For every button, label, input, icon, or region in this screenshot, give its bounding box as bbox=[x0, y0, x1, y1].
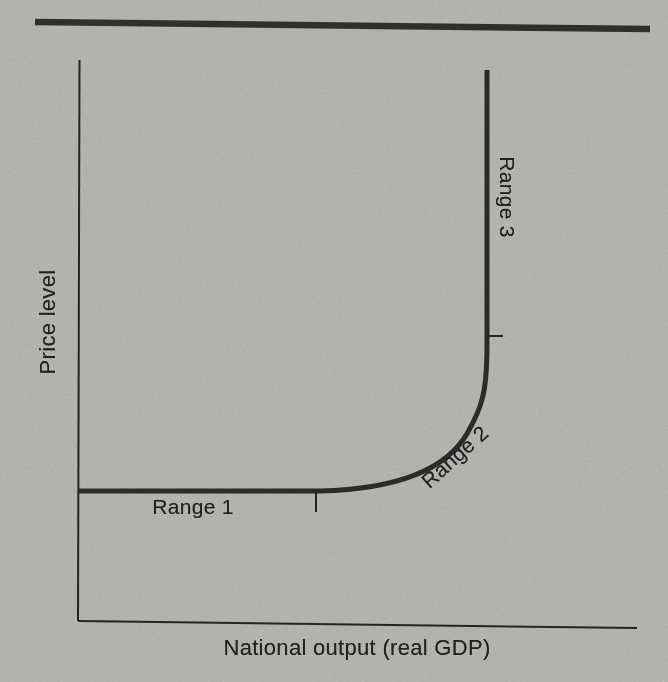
y-axis bbox=[78, 60, 80, 621]
figure-canvas: Price level National output (real GDP) R… bbox=[0, 0, 668, 682]
supply-curve-chart bbox=[0, 0, 668, 682]
range-1-label: Range 1 bbox=[152, 495, 234, 519]
range-3-label: Range 3 bbox=[495, 156, 519, 238]
aggregate-supply-curve bbox=[79, 70, 487, 491]
top-rule bbox=[35, 22, 650, 29]
x-axis-label: National output (real GDP) bbox=[223, 635, 490, 661]
x-axis bbox=[78, 621, 637, 628]
y-axis-label: Price level bbox=[35, 270, 61, 375]
